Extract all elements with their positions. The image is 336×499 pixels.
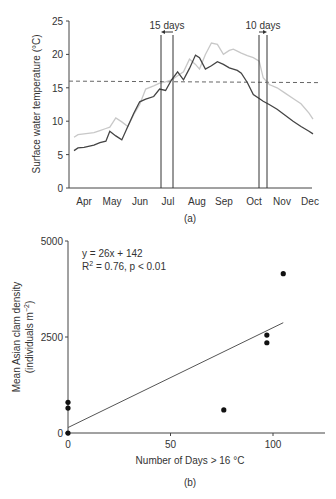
series-line-upper: [74, 43, 313, 137]
data-point: [65, 400, 70, 405]
fit-line: [68, 323, 283, 428]
chart-a-panel-label: (a): [184, 213, 196, 224]
data-point: [281, 271, 286, 276]
chart-a-xtick-label: Apr: [76, 196, 92, 207]
data-point: [221, 407, 226, 412]
chart-a-ytick-label: 10: [52, 116, 64, 127]
chart-b-xtick-label: 0: [65, 439, 71, 450]
series-line-lower: [74, 55, 313, 151]
chart-a-ytick-label: 5: [57, 150, 63, 161]
annotation-label: 15 days: [149, 20, 184, 31]
chart-a-xtick-label: Aug: [188, 196, 206, 207]
chart-b-r2: R2 = 0.76, p < 0.01: [82, 260, 166, 272]
chart-a-ytick-label: 15: [52, 83, 64, 94]
chart-a-ylabel: Surface water temperature (°C): [31, 34, 42, 173]
chart-b-panel-label: (b): [184, 477, 196, 488]
chart-a-xtick-label: Oct: [246, 196, 262, 207]
chart-a-xtick-label: Dec: [301, 196, 319, 207]
chart-b-xtick-label: 100: [265, 439, 282, 450]
threshold-line: [69, 81, 318, 83]
data-point: [264, 332, 269, 337]
data-point: [65, 430, 70, 435]
data-point: [65, 405, 70, 410]
chart-a-ytick-label: 20: [52, 49, 64, 60]
data-point: [264, 340, 269, 345]
chart-b-ytick-label: 0: [57, 428, 63, 439]
chart-a-xtick-label: May: [103, 196, 122, 207]
chart-a-xtick-label: Sep: [215, 196, 233, 207]
chart-b-equation: y = 26x + 142: [82, 248, 143, 259]
chart-a-xtick-label: Nov: [273, 196, 291, 207]
chart-b-ytick-label: 2500: [41, 332, 64, 343]
chart-a-xtick-label: Jun: [132, 196, 148, 207]
chart-a-ytick-label: 0: [57, 183, 63, 194]
chart-a-ytick-label: 25: [52, 16, 64, 27]
chart-b-xtick-label: 50: [165, 439, 177, 450]
temperature-chart: 0510152025AprMayJunJulAugSepOctNovDec 15…: [0, 0, 336, 240]
chart-b-ylabel-line2: (individuals m−2): [23, 301, 35, 373]
chart-a-xtick-label: Jul: [162, 196, 175, 207]
annotation-label: 10 days: [245, 20, 280, 31]
chart-b-xlabel: Number of Days > 16 °C: [136, 455, 245, 466]
chart-b-ylabel-line1: Mean Asian clam density: [11, 282, 22, 393]
